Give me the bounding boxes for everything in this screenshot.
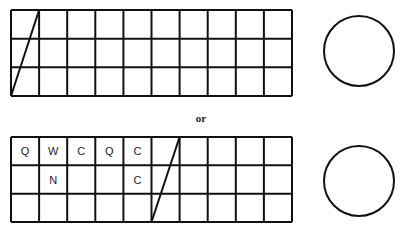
- top-circle: [324, 16, 394, 86]
- cell-letter: N: [49, 174, 57, 186]
- diagram-canvas: QWCQCNC or: [0, 0, 404, 227]
- cell-letter: C: [133, 174, 141, 186]
- cell-letter: Q: [21, 145, 30, 157]
- cell-letter: W: [48, 145, 59, 157]
- cell-letter: C: [77, 145, 85, 157]
- diagonal-slash: [11, 10, 39, 96]
- bottom-circle: [324, 146, 394, 216]
- bottom-grid: QWCQCNC: [11, 137, 292, 222]
- diagonal-slash: [152, 137, 180, 222]
- cell-letter: Q: [105, 145, 114, 157]
- top-grid: [11, 10, 292, 96]
- cell-letter: C: [133, 145, 141, 157]
- or-separator-label: or: [196, 112, 207, 124]
